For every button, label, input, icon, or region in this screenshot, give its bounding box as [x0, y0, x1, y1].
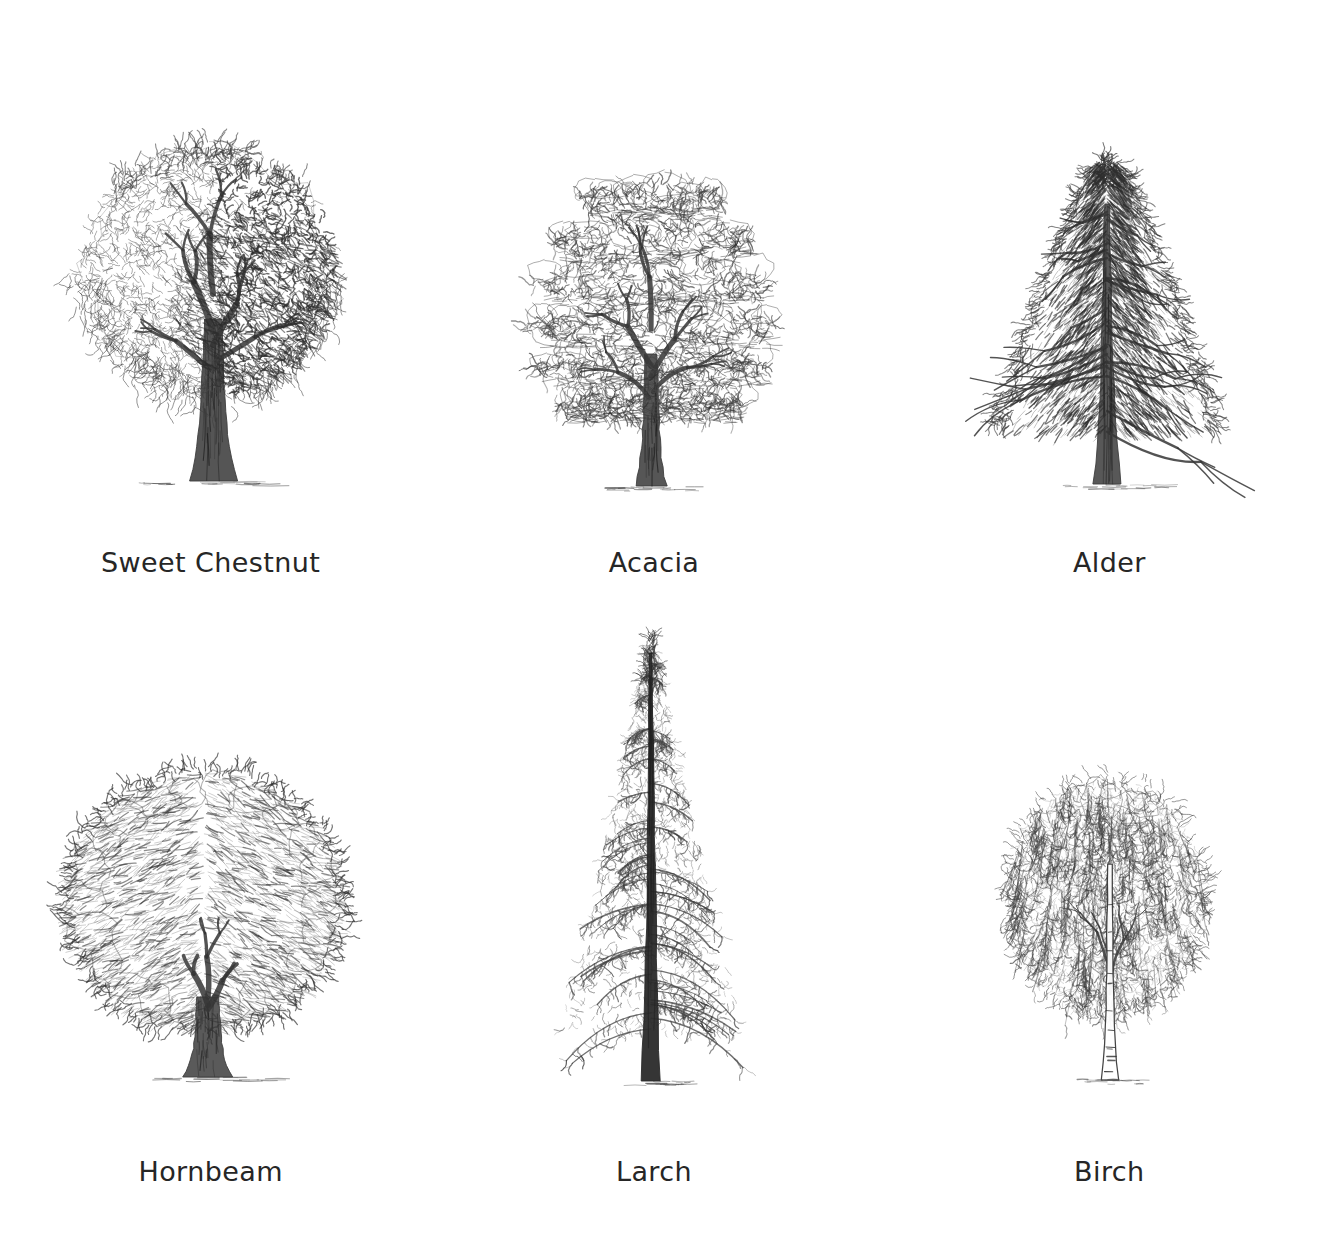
acacia-drawing: [509, 154, 799, 499]
larch-drawing: [539, 629, 769, 1094]
tree-cell-sweet-chestnut: Sweet Chestnut: [0, 0, 439, 615]
tree-caption-alder: Alder: [1073, 547, 1146, 578]
tree-illustration-larch: [439, 629, 868, 1094]
tree-illustration-acacia: [439, 154, 868, 499]
tree-illustration-hornbeam: [0, 729, 421, 1094]
tree-caption-sweet-chestnut: Sweet Chestnut: [101, 547, 320, 578]
tree-illustration-alder: [901, 144, 1318, 499]
tree-caption-hornbeam: Hornbeam: [138, 1156, 282, 1187]
tree-illustration-birch: [901, 744, 1318, 1094]
tree-caption-larch: Larch: [616, 1156, 692, 1187]
tree-illustration-sweet-chestnut: [0, 69, 421, 499]
tree-caption-birch: Birch: [1074, 1156, 1145, 1187]
tree-caption-acacia: Acacia: [609, 547, 700, 578]
birch-drawing: [994, 744, 1224, 1094]
sweet-chestnut-drawing: [41, 69, 381, 499]
tree-identification-plate: Sweet Chestnut Acacia Alder Hornbeam: [0, 0, 1318, 1235]
tree-cell-larch: Larch: [439, 615, 878, 1235]
alder-drawing: [979, 144, 1239, 499]
tree-grid: Sweet Chestnut Acacia Alder Hornbeam: [0, 0, 1318, 1235]
tree-cell-alder: Alder: [879, 0, 1318, 615]
tree-cell-acacia: Acacia: [439, 0, 878, 615]
hornbeam-drawing: [46, 729, 376, 1094]
tree-cell-birch: Birch: [879, 615, 1318, 1235]
tree-cell-hornbeam: Hornbeam: [0, 615, 439, 1235]
